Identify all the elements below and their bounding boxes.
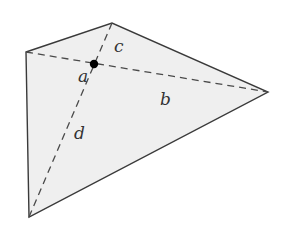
intersection-point [90, 60, 98, 68]
label-c: c [114, 36, 124, 56]
quadrilateral-shape [26, 23, 268, 217]
label-a: a [78, 66, 88, 86]
label-b: b [160, 89, 171, 109]
label-d: d [74, 123, 85, 143]
quadrilateral-diagram: a b c d [0, 0, 289, 233]
